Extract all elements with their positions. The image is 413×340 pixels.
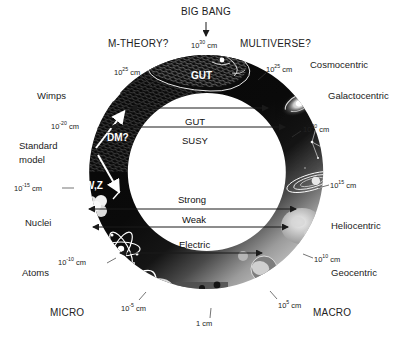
- weak-arrow-label: Weak: [182, 215, 206, 225]
- scale-10e20-label: 1020 cm: [303, 124, 329, 133]
- scale-10e25-left-label: 1025 cm: [114, 67, 140, 76]
- heliocentric-label: Heliocentric: [331, 221, 381, 231]
- scale-10e-20-label: 10-20 cm: [51, 121, 79, 130]
- figure-canvas: BIG BANG 1030 cm M-THEORY? 1025 cm Wimps…: [0, 0, 413, 340]
- nucleus-icon: [84, 195, 107, 217]
- atoms-label: Atoms: [22, 268, 49, 278]
- galactocentric-label: Galactocentric: [328, 91, 389, 101]
- gut-ring-label: GUT: [191, 70, 212, 81]
- scale-10e15-label: 1015 cm: [330, 180, 356, 189]
- gut-arrow-label: GUT: [185, 117, 205, 127]
- scale-10e-15-label: 10-15 cm: [14, 183, 42, 192]
- geocentric-label: Geocentric: [331, 268, 377, 278]
- scale-10e25-right-label: 1025 cm: [266, 64, 292, 73]
- standard-model-label-2: model: [19, 155, 45, 165]
- multiverse-label: MULTIVERSE?: [240, 39, 311, 49]
- dm-question-label: DM?: [107, 132, 129, 143]
- scale-1cm-label: 1 cm: [196, 320, 212, 328]
- electric-arrow-label: Electric: [179, 240, 210, 250]
- snake-tail-icon: [196, 303, 242, 315]
- standard-model-label-1: Standard: [19, 141, 58, 151]
- sun-icon: [281, 208, 323, 244]
- scale-10e10-label: 1010 cm: [314, 254, 340, 263]
- wimps-label: Wimps: [37, 91, 66, 101]
- earth-icon: [251, 256, 277, 282]
- scale-10e-10-label: 10-10 cm: [58, 257, 86, 266]
- susy-arrow-label: SUSY: [182, 136, 208, 146]
- uroboros-svg: [0, 0, 413, 340]
- scale-10e5-label: 105 cm: [278, 300, 301, 309]
- big-bang-label: BIG BANG: [181, 7, 231, 17]
- scale-10e30-label: 1030 cm: [191, 40, 217, 49]
- cosmocentric-label: Cosmocentric: [310, 60, 368, 70]
- strong-arrow-label: Strong: [178, 195, 206, 205]
- wz-label: W,Z: [85, 180, 103, 191]
- m-theory-label: M-THEORY?: [108, 39, 169, 49]
- macro-label: MACRO: [313, 308, 351, 318]
- micro-label: MICRO: [50, 308, 84, 318]
- nuclei-label: Nuclei: [25, 218, 51, 228]
- scale-10e-5-label: 10-5 cm: [121, 303, 146, 312]
